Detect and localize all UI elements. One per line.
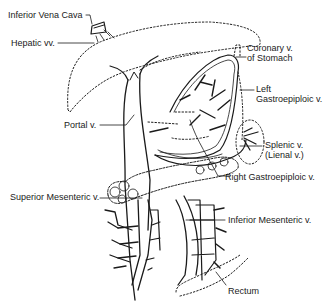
pancreas [108, 157, 239, 203]
label-splenic-vein-line1: Splenic v. [265, 140, 303, 150]
label-coronary-vein-line2: of Stomach [247, 53, 293, 63]
label-splenic-vein-line2: (Lienal v.) [265, 150, 304, 160]
label-inferior-vena-cava: Inferior Vena Cava [8, 10, 83, 20]
stomach [155, 55, 239, 158]
leader-ivc [86, 15, 92, 24]
label-coronary-vein-line1: Coronary v. [247, 43, 293, 53]
label-portal-vein: Portal v. [64, 120, 96, 130]
spleen [236, 120, 264, 164]
label-superior-mesenteric: Superior Mesenteric v. [10, 192, 99, 202]
label-hepatic-veins: Hepatic vv. [11, 38, 55, 48]
ivc-block [91, 22, 106, 34]
label-rectum: Rectum [228, 286, 259, 296]
label-inferior-mesenteric: Inferior Mesenteric v. [228, 215, 311, 225]
leader-rectum [216, 272, 226, 285]
leader-portal [100, 115, 134, 125]
label-left-gastroepiploic-line2: Gastroepiploic v. [256, 94, 322, 104]
portal-venous-system-diagram: Inferior Vena Cava Hepatic vv. Coronary … [0, 0, 329, 302]
label-right-gastroepiploic: Right Gastroepiploic v. [225, 172, 315, 182]
inferior-mesenteric-vein [176, 200, 187, 285]
leader-right-ge [190, 120, 230, 176]
label-left-gastroepiploic-line1: Left [256, 84, 271, 94]
